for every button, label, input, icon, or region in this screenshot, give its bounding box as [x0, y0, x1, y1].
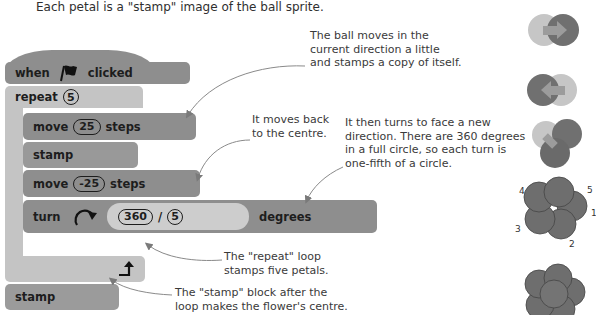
petal-number-2: 2 [569, 239, 575, 249]
five-petal-flower: 4 5 1 3 2 [515, 177, 596, 249]
flower-with-centre [525, 264, 585, 315]
stamp-step-3 [532, 119, 582, 168]
petal-number-5: 5 [587, 185, 593, 195]
stamp-step-2 [527, 74, 577, 106]
petal-number-1: 1 [591, 208, 596, 218]
stamp-step-1 [528, 14, 579, 46]
petal-number-3: 3 [515, 224, 521, 234]
ball-sprite-sequence: 4 5 1 3 2 [505, 0, 596, 315]
petal-number-4: 4 [519, 186, 525, 196]
